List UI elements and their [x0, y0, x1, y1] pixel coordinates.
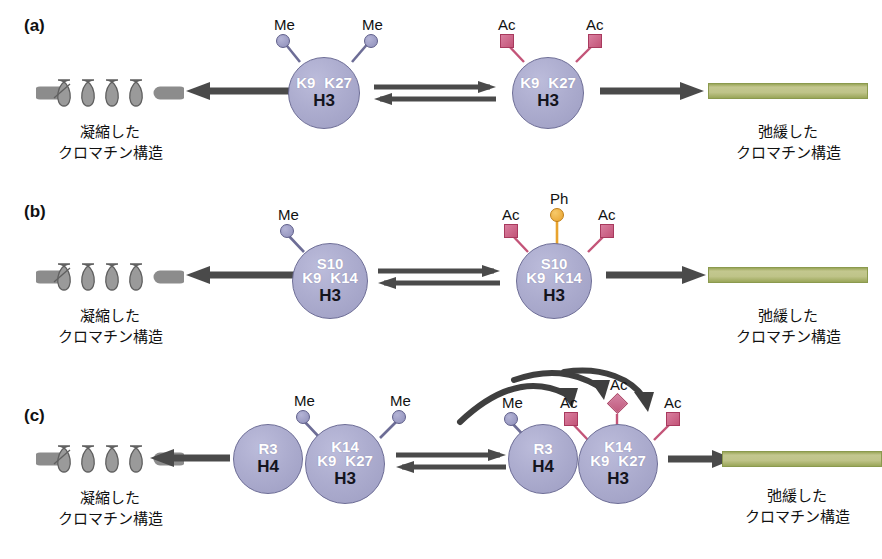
- histone-name: H3: [334, 469, 356, 489]
- histone-h3-b-left: S10 K9 K14 H3: [292, 243, 368, 319]
- mod-label-ac: Ac: [598, 206, 616, 223]
- histone-h3-a-left: K9 K27 H3: [288, 57, 360, 129]
- equilibrium-arrows-b: [378, 264, 500, 290]
- condensed-chromatin-b: [36, 256, 184, 298]
- residue-label: K9: [590, 453, 609, 468]
- relaxed-chromatin-c: [722, 451, 882, 467]
- condensed-caption-a-line1: 凝縮した: [5, 122, 215, 143]
- equilibrium-arrows-a: [374, 80, 496, 106]
- residue-label: K14: [330, 270, 358, 285]
- mod-label-me: Me: [502, 394, 523, 411]
- panel-label-a: (a): [24, 16, 45, 36]
- panel-b: (b) 凝縮した クロマチン構造 Me: [0, 186, 882, 372]
- equilibrium-arrows-c: [396, 448, 506, 474]
- histone-name: H4: [532, 457, 554, 477]
- relaxed-caption-c-line2: クロマチン構造: [692, 507, 882, 528]
- panel-label-b: (b): [24, 202, 46, 222]
- relaxed-caption-c-line1: 弛緩した: [692, 486, 882, 507]
- acetyl-glyph-icon: [600, 224, 614, 238]
- histone-h3-c-left: K14 K9 K27 H3: [305, 424, 385, 504]
- condensed-caption-c-line2: クロマチン構造: [5, 509, 215, 530]
- condensed-caption-a-line2: クロマチン構造: [5, 143, 215, 164]
- condensed-caption-c-line1: 凝縮した: [5, 488, 215, 509]
- methyl-glyph-icon: [364, 34, 378, 48]
- condensed-caption-b-line1: 凝縮した: [5, 306, 215, 327]
- histone-name: H3: [313, 91, 335, 111]
- mod-label-ac: Ac: [502, 206, 520, 223]
- residue-label: K27: [548, 75, 576, 90]
- arrow-right-a: [600, 80, 704, 102]
- relaxed-caption-b-line2: クロマチン構造: [683, 327, 882, 348]
- mod-label-ac: Ac: [498, 16, 516, 33]
- acetyl-glyph-icon: [500, 34, 514, 48]
- mod-label-me: Me: [362, 16, 383, 33]
- condensed-caption-b-line2: クロマチン構造: [5, 327, 215, 348]
- residue-label: K27: [324, 75, 352, 90]
- relaxed-caption-a: 弛緩した クロマチン構造: [683, 122, 882, 164]
- mod-label-me: Me: [274, 16, 295, 33]
- histone-name: H3: [537, 91, 559, 111]
- mod-label-ac: Ac: [560, 394, 578, 411]
- arrow-right-b: [606, 264, 706, 286]
- relaxed-chromatin-b: [708, 267, 868, 283]
- residue-label: K9: [296, 75, 315, 90]
- relaxed-caption-a-line1: 弛緩した: [683, 122, 882, 143]
- histone-name: H4: [257, 457, 279, 477]
- histone-name: H3: [543, 286, 565, 306]
- methyl-glyph-icon: [276, 34, 290, 48]
- mod-label-ac: Ac: [664, 394, 682, 411]
- residue-label: K9: [520, 75, 539, 90]
- mod-label-ph: Ph: [550, 190, 568, 207]
- histone-name: H3: [319, 286, 341, 306]
- panel-c: (c) 凝縮した クロマチン構造 R3 H4: [0, 372, 882, 559]
- methyl-glyph-icon: [280, 224, 294, 238]
- phospho-glyph-icon: [550, 208, 564, 222]
- residue-label: R3: [258, 441, 277, 456]
- mod-label-ac: Ac: [586, 16, 604, 33]
- condensed-caption-a: 凝縮した クロマチン構造: [5, 122, 215, 164]
- relaxed-chromatin-a: [708, 83, 868, 99]
- methyl-glyph-icon: [296, 410, 310, 424]
- histone-h3-b-right: S10 K9 K14 H3: [516, 243, 592, 319]
- mod-label-me: Me: [278, 206, 299, 223]
- mod-label-ac: Ac: [610, 376, 628, 393]
- relaxed-caption-a-line2: クロマチン構造: [683, 143, 882, 164]
- arrow-left-c: [150, 447, 230, 469]
- condensed-caption-c: 凝縮した クロマチン構造: [5, 488, 215, 530]
- acetyl-glyph-icon: [504, 224, 518, 238]
- relaxed-caption-b-line1: 弛緩した: [683, 306, 882, 327]
- condensed-chromatin-a: [36, 72, 184, 114]
- relaxed-caption-c: 弛緩した クロマチン構造: [692, 486, 882, 528]
- residue-label: K27: [345, 453, 373, 468]
- condensed-caption-b: 凝縮した クロマチン構造: [5, 306, 215, 348]
- mod-label-me: Me: [390, 392, 411, 409]
- histone-name: H3: [607, 469, 629, 489]
- acetyl-glyph-icon: [564, 412, 578, 426]
- residue-label: K9: [302, 270, 321, 285]
- acetyl-glyph-icon: [588, 34, 602, 48]
- residue-label: K27: [618, 453, 646, 468]
- residue-label: K9: [526, 270, 545, 285]
- residue-label: K14: [554, 270, 582, 285]
- mod-label-me: Me: [294, 392, 315, 409]
- acetyl-glyph-icon: [666, 412, 680, 426]
- histone-h3-a-right: K9 K27 H3: [512, 57, 584, 129]
- methyl-glyph-icon: [392, 410, 406, 424]
- relaxed-caption-b: 弛緩した クロマチン構造: [683, 306, 882, 348]
- methyl-glyph-icon: [504, 412, 518, 426]
- residue-label: K9: [317, 453, 336, 468]
- panel-label-c: (c): [24, 406, 45, 426]
- histone-h3-c-right: K14 K9 K27 H3: [578, 424, 658, 504]
- residue-label: R3: [533, 441, 552, 456]
- panel-a: (a) 凝縮した クロマチン構造 Me: [0, 0, 882, 186]
